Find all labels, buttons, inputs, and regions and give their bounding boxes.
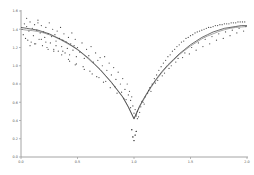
- data-point: [171, 65, 172, 66]
- data-point: [97, 60, 98, 61]
- data-point: [69, 61, 70, 62]
- data-point: [139, 112, 140, 113]
- data-point: [81, 42, 82, 43]
- chart-figure: 0.00.20.40.60.81.01.21.41.6 0.00.51.01.5…: [0, 0, 254, 175]
- data-point: [217, 25, 218, 26]
- data-point: [96, 76, 97, 77]
- data-point: [64, 52, 65, 53]
- data-point: [115, 79, 116, 80]
- y-tick-label: 1.0: [12, 64, 17, 68]
- data-point: [116, 93, 117, 94]
- data-point: [102, 65, 103, 66]
- data-point: [41, 39, 42, 40]
- data-point: [164, 72, 165, 73]
- data-point: [125, 99, 126, 100]
- data-point: [210, 27, 211, 28]
- data-point: [244, 21, 245, 22]
- data-point: [150, 91, 151, 92]
- data-point: [194, 32, 195, 33]
- data-point: [95, 52, 96, 53]
- data-point: [190, 35, 191, 36]
- data-point: [52, 29, 53, 30]
- data-point: [232, 30, 233, 31]
- outlier-point: [135, 134, 136, 135]
- data-point: [71, 32, 72, 33]
- data-point: [23, 34, 24, 35]
- data-point: [212, 26, 213, 27]
- data-point: [192, 34, 193, 35]
- data-point: [32, 28, 33, 29]
- data-point: [205, 39, 206, 40]
- data-point: [130, 107, 131, 108]
- data-point: [224, 23, 225, 24]
- data-point: [238, 28, 239, 29]
- data-point: [69, 54, 70, 55]
- data-point: [61, 46, 62, 47]
- data-point: [162, 75, 163, 76]
- data-point: [191, 47, 192, 48]
- data-point: [118, 72, 119, 73]
- data-point: [182, 57, 183, 58]
- y-tick-label: 0.4: [12, 119, 17, 123]
- data-point: [157, 80, 158, 81]
- data-point: [184, 52, 185, 53]
- data-point: [155, 82, 156, 83]
- data-point: [240, 21, 241, 22]
- data-point: [127, 83, 128, 84]
- data-point: [208, 27, 209, 28]
- data-point: [42, 45, 43, 46]
- data-point: [53, 51, 54, 52]
- data-point: [132, 105, 133, 106]
- y-tick-label: 1.6: [12, 9, 17, 13]
- data-point: [175, 61, 176, 62]
- data-point: [49, 22, 50, 23]
- data-point: [163, 62, 164, 63]
- data-point: [183, 40, 184, 41]
- data-point: [61, 54, 62, 55]
- data-point: [34, 24, 35, 25]
- data-point: [216, 40, 217, 41]
- data-point: [57, 30, 58, 31]
- y-tick-label: 0.0: [12, 155, 17, 159]
- data-point: [111, 74, 112, 75]
- data-point: [174, 49, 175, 50]
- outlier-point: [132, 136, 133, 137]
- data-point: [202, 46, 203, 47]
- data-point: [209, 43, 210, 44]
- plot-background: [0, 0, 254, 175]
- data-point: [53, 49, 54, 50]
- data-point: [229, 35, 230, 36]
- data-point: [223, 38, 224, 39]
- data-point: [84, 58, 85, 59]
- data-point: [188, 37, 189, 38]
- data-point: [199, 30, 200, 31]
- x-tick-label: 0.0: [18, 160, 23, 164]
- data-point: [98, 77, 99, 78]
- data-point: [113, 67, 114, 68]
- data-point: [27, 40, 28, 41]
- data-point: [37, 20, 38, 21]
- data-point: [233, 22, 234, 23]
- data-point: [181, 41, 182, 42]
- data-point: [235, 22, 236, 23]
- data-point: [68, 37, 69, 38]
- data-point: [83, 66, 84, 67]
- data-point: [206, 28, 207, 29]
- data-point: [243, 30, 244, 31]
- data-point: [154, 78, 155, 79]
- data-point: [75, 64, 76, 65]
- data-point: [156, 74, 157, 75]
- data-point: [50, 42, 51, 43]
- data-point: [226, 23, 227, 24]
- data-point: [35, 43, 36, 44]
- data-point: [128, 94, 129, 95]
- data-point: [222, 24, 223, 25]
- y-tick-label: 0.8: [12, 82, 17, 86]
- outlier-point: [131, 129, 132, 130]
- data-point: [172, 51, 173, 52]
- data-point: [176, 46, 177, 47]
- data-point: [131, 96, 132, 97]
- data-point: [106, 70, 107, 71]
- y-tick-label: 0.6: [12, 101, 17, 105]
- y-tick-label: 0.2: [12, 137, 17, 141]
